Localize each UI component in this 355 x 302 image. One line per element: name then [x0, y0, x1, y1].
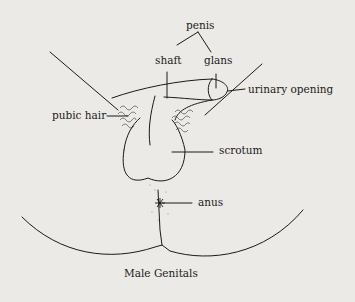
urinary-opening-leader: [228, 89, 245, 91]
male-genitals-diagram: [0, 0, 355, 302]
penis-underside-2: [175, 100, 212, 120]
scrotum-left-outline: [124, 118, 140, 150]
figure-caption: Male Genitals: [124, 268, 198, 279]
label-scrotum: scrotum: [219, 145, 263, 156]
buttocks-outline: [22, 210, 303, 256]
label-penis: penis: [186, 20, 214, 31]
label-glans: glans: [204, 55, 233, 66]
pubic-hair-texture: [118, 106, 193, 132]
scrotum-outline: [123, 120, 185, 181]
penis-underside: [149, 96, 155, 145]
penis-shaft-outline-bottom: [164, 97, 212, 100]
label-pubic-hair: pubic hair: [52, 110, 106, 121]
left-thigh-line: [50, 52, 118, 110]
penis-shaft-outline-top: [112, 79, 212, 98]
label-anus: anus: [198, 197, 223, 208]
label-urinary-opening: urinary opening: [248, 84, 333, 95]
anus-mark: [155, 198, 165, 208]
penis-bracket-left: [177, 32, 198, 45]
label-shaft: shaft: [155, 55, 182, 66]
penis-bracket-right: [198, 32, 211, 52]
